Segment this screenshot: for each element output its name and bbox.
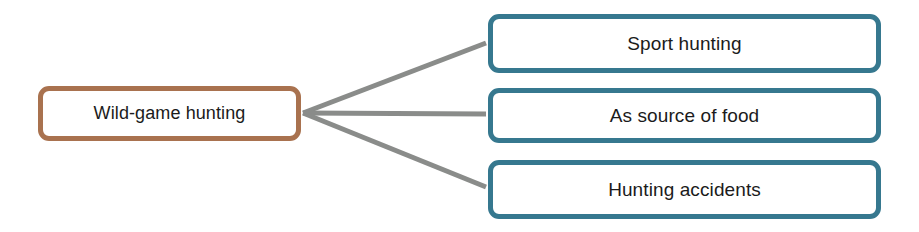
node-child-label-hunting-accidents: Hunting accidents — [608, 179, 761, 201]
connector-line-to-hunting-accidents — [303, 113, 486, 187]
connector-line-to-as-source-of-food — [303, 113, 486, 114]
node-child-hunting-accidents[interactable]: Hunting accidents — [488, 160, 881, 219]
diagram-canvas: Wild-game hunting Sport hunting As sourc… — [0, 0, 919, 232]
connector-line-to-sport-hunting — [303, 43, 486, 113]
node-child-label-sport-hunting: Sport hunting — [627, 33, 741, 55]
node-root-label: Wild-game hunting — [94, 103, 246, 124]
node-root-wild-game-hunting[interactable]: Wild-game hunting — [38, 86, 301, 141]
node-child-sport-hunting[interactable]: Sport hunting — [488, 14, 881, 73]
node-child-label-as-source-of-food: As source of food — [610, 105, 760, 127]
node-child-as-source-of-food[interactable]: As source of food — [488, 88, 881, 143]
